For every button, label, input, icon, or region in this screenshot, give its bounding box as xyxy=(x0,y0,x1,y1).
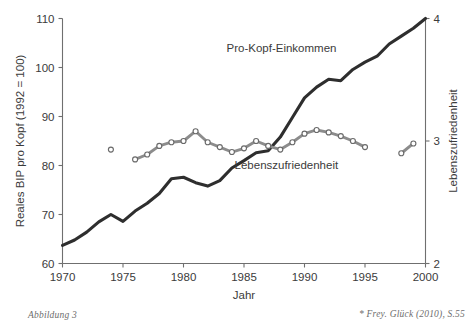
right-axis-tick-label: 2 xyxy=(434,258,440,270)
life-satisfaction-marker xyxy=(266,143,271,148)
x-axis-tick-label: 1990 xyxy=(292,271,318,283)
life-satisfaction-marker xyxy=(229,150,234,155)
life-satisfaction-marker xyxy=(169,140,174,145)
left-axis-tick-label: 60 xyxy=(42,258,55,270)
x-axis-tick-label: 1970 xyxy=(50,271,76,283)
left-axis-tick-label: 70 xyxy=(42,209,55,221)
life-satisfaction-marker xyxy=(399,151,404,156)
x-axis-title: Jahr xyxy=(233,289,256,301)
life-satisfaction-marker xyxy=(363,145,368,150)
life-satisfaction-marker xyxy=(254,139,259,144)
life-satisfaction-marker xyxy=(314,127,319,132)
x-axis-tick-label: 1995 xyxy=(352,271,378,283)
x-axis-tick-label: 2000 xyxy=(413,271,439,283)
figure-caption-left: Abbildung 3 xyxy=(28,310,77,320)
left-axis-tick-label: 80 xyxy=(42,160,55,172)
life-satisfaction-marker xyxy=(350,139,355,144)
figure-source-note: * Frey. Glück (2010), S.55 xyxy=(359,309,465,319)
life-satisfaction-marker xyxy=(242,146,247,151)
right-axis-tick-label: 3 xyxy=(434,135,440,147)
right-axis-title: Lebenszufriedenheit xyxy=(447,88,459,192)
x-axis-tick-label: 1985 xyxy=(231,271,257,283)
life-satisfaction-marker xyxy=(133,157,138,162)
series-label-gdp-per-capita: Pro-Kopf-Einkommen xyxy=(227,42,337,54)
left-axis-title: Reales BIP pro Kopf (1992 = 100) xyxy=(14,54,26,227)
chart-plot-area: 6070809010011023419701975198019851990199… xyxy=(14,13,459,301)
life-satisfaction-marker xyxy=(326,130,331,135)
life-satisfaction-marker xyxy=(205,140,210,145)
life-satisfaction-marker xyxy=(181,139,186,144)
x-axis-tick-label: 1975 xyxy=(110,271,136,283)
life-satisfaction-marker xyxy=(411,141,416,146)
chart-figure: 6070809010011023419701975198019851990199… xyxy=(0,0,475,333)
life-satisfaction-marker xyxy=(338,134,343,139)
life-satisfaction-marker xyxy=(290,140,295,145)
left-axis-tick-label: 110 xyxy=(36,13,54,25)
left-axis-tick-label: 100 xyxy=(35,62,54,74)
life-satisfaction-marker xyxy=(193,129,198,134)
life-satisfaction-marker xyxy=(302,131,307,136)
x-axis-tick-label: 1980 xyxy=(171,271,197,283)
right-axis-tick-label: 4 xyxy=(434,13,441,25)
series-label-life-satisfaction: Lebenszufriedenheit xyxy=(235,159,339,171)
life-satisfaction-marker xyxy=(278,147,283,152)
life-satisfaction-marker xyxy=(217,145,222,150)
life-satisfaction-marker xyxy=(157,143,162,148)
life-satisfaction-marker xyxy=(145,152,150,157)
life-satisfaction-marker xyxy=(108,147,113,152)
left-axis-tick-label: 90 xyxy=(42,111,55,123)
